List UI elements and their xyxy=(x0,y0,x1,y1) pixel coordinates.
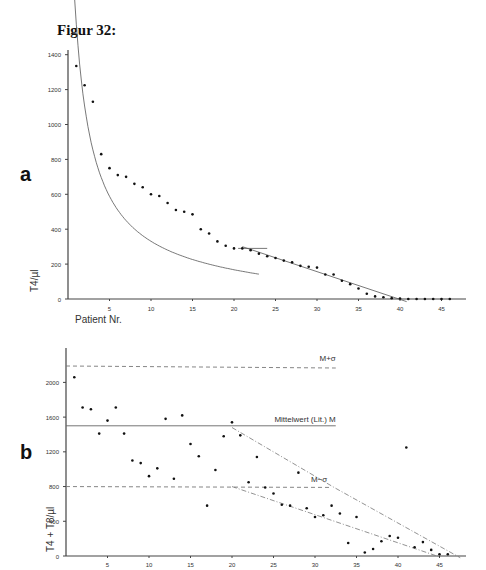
figure-canvas: 0200400600800100012001400510152025303540… xyxy=(0,0,486,570)
upper-trend-line xyxy=(232,428,460,558)
data-point xyxy=(430,549,433,552)
x-tick-label: 35 xyxy=(353,562,360,568)
data-point xyxy=(115,406,118,409)
data-point xyxy=(133,183,136,186)
data-point xyxy=(374,295,377,298)
y-tick-label: 1600 xyxy=(46,415,60,421)
data-point xyxy=(75,65,78,68)
data-point xyxy=(349,283,352,286)
data-point xyxy=(332,273,335,276)
data-point xyxy=(283,259,286,262)
data-point xyxy=(166,202,169,205)
data-point xyxy=(382,296,385,299)
x-tick-label: 45 xyxy=(438,306,445,312)
y-tick-label: 600 xyxy=(51,192,62,198)
data-point xyxy=(413,546,416,549)
x-tick-label: 20 xyxy=(231,306,238,312)
data-point xyxy=(123,432,126,435)
data-point xyxy=(355,516,358,519)
data-point xyxy=(106,419,109,422)
x-tick-label: 5 xyxy=(106,562,110,568)
data-point xyxy=(272,492,275,495)
data-point xyxy=(98,432,101,435)
data-point xyxy=(224,244,227,247)
data-point xyxy=(222,435,225,438)
x-tick-label: 35 xyxy=(355,306,362,312)
data-point xyxy=(397,536,400,539)
data-point xyxy=(164,418,167,421)
data-point xyxy=(399,297,402,300)
data-point xyxy=(440,298,443,301)
y-tick-label: 2000 xyxy=(46,380,60,386)
data-point xyxy=(364,551,367,554)
chart-b: 040080012001600200051015202530354045T4 +… xyxy=(45,348,466,568)
y-tick-label: 0 xyxy=(56,554,60,560)
data-point xyxy=(206,504,209,507)
data-point xyxy=(158,195,161,198)
data-point xyxy=(438,553,441,556)
x-axis-label: Patient Nr. xyxy=(75,314,122,325)
data-point xyxy=(148,475,151,478)
hyperbolic-fit-curve xyxy=(73,0,259,274)
data-point xyxy=(256,456,259,459)
data-point xyxy=(357,287,360,290)
data-point xyxy=(198,455,201,458)
x-tick-label: 30 xyxy=(314,306,321,312)
data-point xyxy=(141,186,144,189)
y-tick-label: 800 xyxy=(49,484,60,490)
data-point xyxy=(341,279,344,282)
data-point xyxy=(100,153,103,156)
data-point xyxy=(108,167,111,170)
data-point xyxy=(266,255,269,258)
x-tick-label: 25 xyxy=(272,306,279,312)
data-point xyxy=(117,174,120,177)
data-point xyxy=(125,176,128,179)
data-point xyxy=(175,209,178,212)
data-point xyxy=(258,252,261,255)
data-point xyxy=(415,298,418,301)
m-plus-sigma-line xyxy=(66,366,336,368)
data-point xyxy=(291,261,294,264)
y-tick-label: 800 xyxy=(51,157,62,163)
data-point xyxy=(189,443,192,446)
y-tick-label: 1200 xyxy=(46,449,60,455)
data-point xyxy=(324,273,327,276)
data-point xyxy=(216,240,219,243)
x-tick-label: 25 xyxy=(270,562,277,568)
data-point xyxy=(297,471,300,474)
data-point xyxy=(214,469,217,472)
data-point xyxy=(322,514,325,517)
data-point xyxy=(92,101,95,104)
y-tick-label: 1000 xyxy=(48,122,62,128)
data-point xyxy=(407,298,410,301)
lower-trend-line xyxy=(232,487,440,557)
data-point xyxy=(372,548,375,551)
y-tick-label: 0 xyxy=(58,297,62,303)
data-point xyxy=(388,535,391,538)
data-point xyxy=(239,434,242,437)
data-point xyxy=(264,486,267,489)
x-tick-label: 15 xyxy=(187,562,194,568)
data-point xyxy=(83,84,86,87)
y-axis-label: T4/µl xyxy=(29,270,40,292)
x-tick-label: 5 xyxy=(108,306,112,312)
chart-a: 0200400600800100012001400510152025303540… xyxy=(29,0,466,325)
data-point xyxy=(289,504,292,507)
data-point xyxy=(156,467,159,470)
y-tick-label: 400 xyxy=(51,227,62,233)
data-point xyxy=(233,247,236,250)
data-point xyxy=(200,228,203,231)
x-tick-label: 20 xyxy=(229,562,236,568)
m-plus-sigma-label: M+σ xyxy=(319,354,335,363)
data-point xyxy=(305,507,308,510)
data-point xyxy=(73,376,76,379)
data-point xyxy=(183,210,186,213)
x-tick-label: 40 xyxy=(397,306,404,312)
data-point xyxy=(299,265,302,268)
data-point xyxy=(314,516,317,519)
x-tick-label: 15 xyxy=(189,306,196,312)
data-point xyxy=(150,193,153,196)
data-point xyxy=(380,540,383,543)
data-point xyxy=(274,257,277,260)
data-point xyxy=(366,292,369,295)
